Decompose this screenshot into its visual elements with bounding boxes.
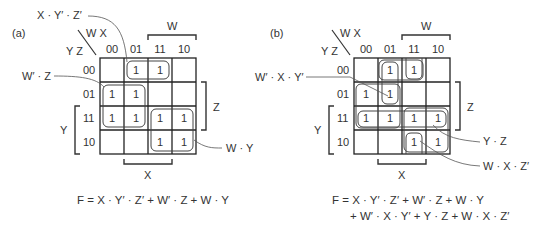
row-header: 11 (83, 112, 94, 124)
cell: 1 (435, 112, 441, 124)
row-header: 10 (337, 136, 349, 148)
row-header: 10 (83, 136, 95, 148)
corner-left-label: Y Z (321, 45, 338, 57)
annotation-w-z: W′ · Z (22, 70, 51, 82)
row-header: 00 (83, 64, 95, 76)
cell: 1 (181, 136, 187, 148)
col-header: 01 (384, 43, 396, 55)
karnaugh-map-diagram: (a) W X Y Z 00 01 11 10 00 01 11 10 1 1 … (0, 0, 543, 233)
cell: 1 (363, 88, 369, 100)
col-header: 11 (154, 43, 165, 55)
cell: 1 (435, 136, 441, 148)
cell: 1 (387, 88, 393, 100)
annotation-x-y-z: X · Y′ · Z′ (37, 9, 82, 21)
col-header: 10 (178, 43, 190, 55)
leader-line (194, 140, 222, 148)
cell: 1 (133, 88, 139, 100)
brace-y-label: Y (314, 124, 322, 136)
corner-left-label: Y Z (66, 45, 83, 57)
cell: 1 (109, 88, 115, 100)
brace-y (75, 106, 80, 154)
cell: 1 (157, 136, 163, 148)
col-header: 10 (432, 43, 444, 55)
corner-top-label: W X (340, 27, 361, 39)
brace-w (402, 35, 450, 40)
panel-a-label: (a) (12, 27, 25, 39)
brace-w-label: W (421, 20, 432, 32)
cell: 1 (133, 112, 139, 124)
equation-b-line1: F = X · Y′ · Z′ + W′ · Z + W · Y (332, 194, 484, 206)
cell: 1 (387, 112, 393, 124)
annotation-w-x-z: W · X · Z′ (483, 160, 529, 172)
brace-z (201, 82, 206, 130)
brace-x (124, 159, 172, 164)
cell: 1 (157, 112, 163, 124)
annotation-w-y: W · Y (226, 142, 254, 154)
brace-x (378, 159, 426, 164)
cell: 1 (411, 112, 417, 124)
annotation-w-x-y: W′ · X · Y′ (255, 71, 304, 83)
cell: 1 (363, 112, 369, 124)
brace-y-label: Y (60, 124, 68, 136)
cell: 1 (133, 64, 139, 76)
leader-line (54, 76, 104, 87)
row-header: 01 (83, 88, 95, 100)
cell: 1 (411, 64, 417, 76)
equation-a: F = X · Y′ · Z′ + W′ · Z + W · Y (77, 194, 229, 206)
row-header: 01 (337, 88, 349, 100)
col-header: 01 (130, 43, 142, 55)
brace-z-label: Z (213, 101, 220, 113)
brace-w-label: W (167, 20, 178, 32)
equation-b-line2: + W′ · X · Y′ + Y · Z + W · X · Z′ (350, 210, 510, 222)
brace-y (329, 106, 334, 154)
cell: 1 (109, 112, 115, 124)
corner-top-label: W X (86, 27, 107, 39)
brace-x-label: X (144, 169, 152, 181)
brace-w (148, 35, 196, 40)
brace-x-label: X (398, 169, 406, 181)
row-header: 00 (337, 64, 349, 76)
cell: 1 (181, 112, 187, 124)
cell: 1 (387, 64, 393, 76)
cell: 1 (411, 136, 417, 148)
cell: 1 (157, 64, 163, 76)
col-header: 00 (360, 43, 372, 55)
col-header: 11 (408, 43, 419, 55)
panel-b-label: (b) (270, 27, 283, 39)
panel-b: (b) W X Y Z 00 01 11 10 00 01 11 10 1 1 … (255, 20, 529, 222)
brace-z (455, 82, 460, 130)
annotation-y-z: Y · Z (483, 135, 507, 147)
leader-line (88, 16, 127, 62)
panel-a: (a) W X Y Z 00 01 11 10 00 01 11 10 1 1 … (12, 9, 254, 206)
row-header: 11 (337, 112, 348, 124)
col-header: 00 (106, 43, 118, 55)
brace-z-label: Z (467, 101, 474, 113)
